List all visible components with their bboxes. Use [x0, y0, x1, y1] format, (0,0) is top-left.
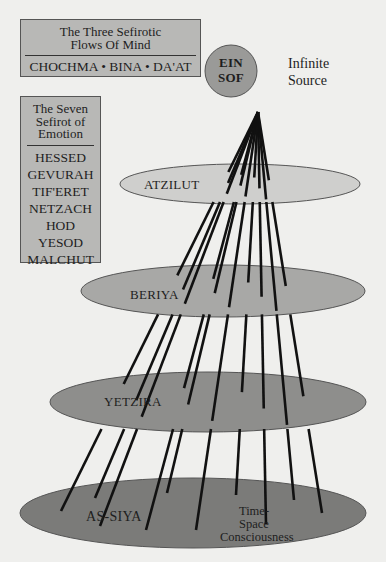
world-ellipse: [81, 265, 365, 317]
ein-sof-line-1: EIN: [207, 55, 255, 70]
note-line-3: Consciousness: [220, 531, 288, 544]
world-label-yetzira: YETZIRA: [104, 394, 162, 410]
source-label-1: Infinite: [288, 55, 329, 72]
ray-line: [177, 202, 213, 275]
divider: [25, 55, 196, 56]
sefira-item: HESSED: [21, 149, 100, 166]
source-label-2: Source: [288, 72, 329, 89]
three-sefirot-items: CHOCHMA • BINA • DA'AT: [21, 59, 200, 75]
world-label-beriya: BERIYA: [130, 287, 179, 303]
divider: [27, 145, 94, 146]
world-label-atzilut: ATZILUT: [144, 177, 200, 193]
ein-sof-label: EIN SOF: [207, 55, 255, 85]
sefira-item: TIF'ERET: [21, 183, 100, 200]
seven-sefirot-title-1: The Seven: [21, 97, 100, 116]
sefira-item: NETZACH: [21, 200, 100, 217]
sefira-item: GEVURAH: [21, 166, 100, 183]
three-sefirot-title-2: Flows Of Mind: [21, 38, 200, 51]
world-ellipse: [50, 372, 366, 432]
seven-sefirot-title-3: Emotion: [21, 128, 100, 141]
ray-line: [262, 314, 264, 408]
ray-line: [260, 202, 262, 297]
sefira-item: MALCHUT: [21, 251, 100, 268]
sefira-item: HOD: [21, 217, 100, 234]
three-sefirot-box: The Three Sefirotic Flows Of Mind CHOCHM…: [20, 19, 201, 77]
infinite-source-label: Infinite Source: [288, 55, 329, 89]
time-space-label: Time- Space Consciousness: [220, 505, 288, 544]
three-sefirot-title-1: The Three Sefirotic: [21, 20, 200, 38]
ein-sof-line-2: SOF: [207, 70, 255, 85]
sefira-item: YESOD: [21, 234, 100, 251]
seven-sefirot-box: The Seven Sefirot of Emotion HESSED GEVU…: [20, 96, 101, 263]
world-label-assiya: AS-SIYA: [86, 509, 142, 525]
